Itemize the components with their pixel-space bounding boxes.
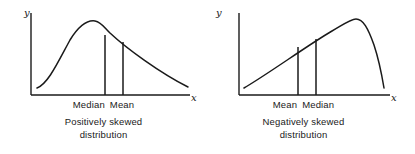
mean-label: Mean bbox=[110, 99, 134, 110]
panel-positively-skewed: y x MedianMean Positively skewed distrib… bbox=[0, 0, 207, 154]
panel-caption: Positively skewed distribution bbox=[0, 115, 207, 141]
mean-label: Mean bbox=[273, 99, 297, 110]
median-label: Median bbox=[302, 99, 334, 110]
caption-line-1: Negatively skewed bbox=[200, 115, 407, 128]
skewness-figure: y x MedianMean Positively skewed distrib… bbox=[0, 0, 415, 154]
caption-line-1: Positively skewed bbox=[0, 115, 207, 128]
caption-line-2: distribution bbox=[0, 128, 207, 141]
panel-caption: Negatively skewed distribution bbox=[200, 115, 407, 141]
distribution-curve bbox=[244, 19, 384, 88]
caption-line-2: distribution bbox=[200, 128, 407, 141]
panel-negatively-skewed: y x MeanMedian Negatively skewed distrib… bbox=[208, 0, 415, 154]
marker-labels: MeanMedian bbox=[200, 99, 407, 111]
distribution-curve bbox=[37, 21, 188, 88]
median-label: Median bbox=[73, 99, 105, 110]
marker-labels: MedianMean bbox=[0, 99, 207, 111]
